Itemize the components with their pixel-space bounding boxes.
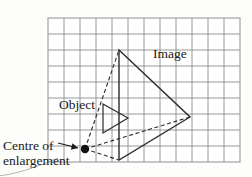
label-centre-of-enlargement: Centre of enlargement bbox=[3, 139, 69, 168]
label-centre-line1: Centre of bbox=[3, 138, 54, 153]
coordinate-grid bbox=[48, 18, 240, 162]
centre-of-enlargement-dot bbox=[81, 145, 89, 153]
diagram-canvas: Image Object Centre of enlargement bbox=[0, 0, 252, 177]
label-centre-line2: enlargement bbox=[3, 154, 69, 169]
label-image: Image bbox=[153, 47, 187, 62]
label-object: Object bbox=[59, 98, 95, 113]
